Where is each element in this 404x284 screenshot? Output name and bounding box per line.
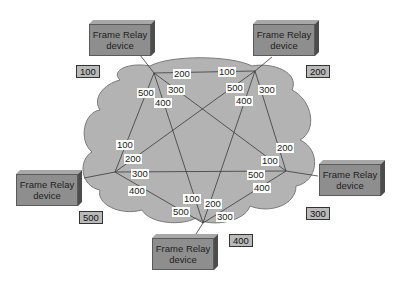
device-side-face — [78, 170, 82, 206]
dlci-tag-e: 500 — [79, 211, 103, 224]
dlci-label-c-to-a: 100 — [261, 156, 279, 166]
device-front-face: Frame Relay device — [89, 24, 151, 56]
device-front-face: Frame Relay device — [16, 174, 78, 206]
dlci-label-d-to-a: 100 — [183, 194, 201, 204]
dlci-label-b-to-a: 100 — [218, 67, 236, 77]
frame-relay-device-e: Frame Relay device — [16, 170, 82, 206]
device-label-line1: Frame Relay — [323, 169, 377, 180]
device-label-line2: device — [33, 190, 60, 201]
device-side-face — [214, 234, 218, 270]
dlci-label-a-to-c: 300 — [167, 85, 185, 95]
dlci-tag-d: 400 — [229, 234, 253, 247]
dlci-label-c-to-e: 500 — [247, 170, 265, 180]
device-front-face: Frame Relay device — [152, 238, 214, 270]
frame-relay-device-a: Frame Relay device — [89, 20, 155, 56]
dlci-label-c-to-b: 200 — [276, 143, 294, 153]
frame-relay-device-d: Frame Relay device — [152, 234, 218, 270]
dlci-label-e-to-a: 100 — [116, 140, 134, 150]
frame-relay-device-c: Frame Relay device — [319, 160, 385, 196]
device-label-line2: device — [336, 180, 363, 191]
frame-relay-diagram: Frame Relay device 100 Frame Relay devic… — [0, 0, 404, 284]
frame-relay-device-b: Frame Relay device — [253, 20, 319, 56]
dlci-tag-c: 300 — [306, 207, 330, 220]
dlci-label-a-to-d: 400 — [154, 98, 172, 108]
device-label-line1: Frame Relay — [257, 29, 311, 40]
dlci-tag-b: 200 — [306, 65, 330, 78]
dlci-tag-a: 100 — [76, 65, 100, 78]
dlci-label-d-to-c: 300 — [216, 212, 234, 222]
device-label-line2: device — [106, 40, 133, 51]
device-label-line2: device — [169, 254, 196, 265]
dlci-label-e-to-c: 300 — [131, 169, 149, 179]
dlci-label-b-to-c: 300 — [258, 85, 276, 95]
device-label-line2: device — [270, 40, 297, 51]
dlci-label-b-to-d: 400 — [235, 96, 253, 106]
dlci-label-e-to-b: 200 — [124, 154, 142, 164]
device-label-line1: Frame Relay — [93, 29, 147, 40]
device-side-face — [151, 20, 155, 56]
device-front-face: Frame Relay device — [319, 164, 381, 196]
dlci-label-a-to-e: 500 — [137, 88, 155, 98]
device-label-line1: Frame Relay — [156, 243, 210, 254]
device-label-line1: Frame Relay — [20, 179, 74, 190]
dlci-label-d-to-b: 200 — [204, 199, 222, 209]
device-front-face: Frame Relay device — [253, 24, 315, 56]
dlci-label-b-to-e: 500 — [226, 83, 244, 93]
dlci-label-d-to-e: 500 — [172, 207, 190, 217]
dlci-label-a-to-b: 200 — [173, 69, 191, 79]
device-side-face — [381, 160, 385, 196]
device-side-face — [315, 20, 319, 56]
dlci-label-e-to-d: 400 — [128, 186, 146, 196]
dlci-label-c-to-d: 400 — [253, 183, 271, 193]
